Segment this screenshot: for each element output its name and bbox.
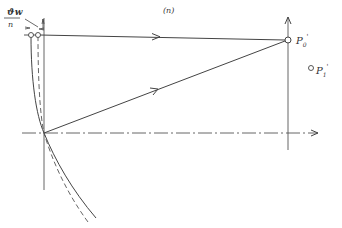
fraction-numerator: ϑw xyxy=(7,7,23,17)
p0-label-sub: 0 xyxy=(303,41,307,48)
top-vector-line xyxy=(40,34,285,41)
diagonal-vector-line xyxy=(44,41,285,133)
p1-label-prime: ' xyxy=(327,63,329,71)
fraction-denominator: n xyxy=(8,20,13,29)
diagram-canvas: ϑw n (n) P0' P1' xyxy=(0,0,342,228)
dimension-indicator xyxy=(25,19,44,30)
solid-curve xyxy=(31,36,96,218)
panel-label: (n) xyxy=(163,6,174,15)
dashed-curve xyxy=(38,36,88,222)
point-p0: P0' xyxy=(285,33,309,48)
p1-label-sub: 1 xyxy=(323,71,327,78)
point-p1: P1' xyxy=(309,63,329,78)
fraction-label: ϑw n xyxy=(4,7,23,29)
svg-text:P1': P1' xyxy=(315,63,329,78)
arrowhead-icon xyxy=(152,34,160,41)
svg-text:P0': P0' xyxy=(295,33,309,48)
p0-label-prime: ' xyxy=(307,33,309,41)
open-circle-marker xyxy=(29,33,34,38)
open-circle-marker xyxy=(36,33,41,38)
